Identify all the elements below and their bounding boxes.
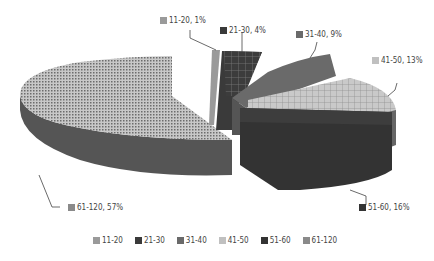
data-label-11-20: 11-20, 1% bbox=[160, 16, 206, 25]
legend-swatch-icon bbox=[303, 237, 310, 244]
data-label-31-40: 31-40, 9% bbox=[296, 30, 342, 39]
legend-item-31-40: 31-40 bbox=[177, 236, 207, 245]
legend-item-11-20: 11-20 bbox=[93, 236, 123, 245]
chart-legend: 11-20 21-30 31-40 41-50 51-60 61-120 bbox=[93, 236, 337, 245]
slice-51-60 bbox=[240, 108, 392, 190]
swatch-icon bbox=[160, 17, 167, 24]
legend-swatch-icon bbox=[93, 237, 100, 244]
data-label-51-60: 51-60, 16% bbox=[359, 203, 409, 212]
swatch-icon bbox=[296, 31, 303, 38]
legend-swatch-icon bbox=[135, 237, 142, 244]
legend-swatch-icon bbox=[261, 237, 268, 244]
slice-61-120 bbox=[20, 56, 232, 175]
data-label-61-120: 61-120, 57% bbox=[68, 203, 123, 212]
legend-item-51-60: 51-60 bbox=[261, 236, 291, 245]
swatch-icon bbox=[68, 204, 75, 211]
swatch-icon bbox=[359, 204, 366, 211]
pie-chart-3d bbox=[0, 0, 434, 261]
swatch-icon bbox=[220, 27, 227, 34]
legend-item-41-50: 41-50 bbox=[219, 236, 249, 245]
legend-item-21-30: 21-30 bbox=[135, 236, 165, 245]
legend-item-61-120: 61-120 bbox=[303, 236, 338, 245]
legend-swatch-icon bbox=[219, 237, 226, 244]
data-label-21-30: 21-30, 4% bbox=[220, 26, 266, 35]
swatch-icon bbox=[372, 57, 379, 64]
legend-swatch-icon bbox=[177, 237, 184, 244]
data-label-41-50: 41-50, 13% bbox=[372, 56, 422, 65]
